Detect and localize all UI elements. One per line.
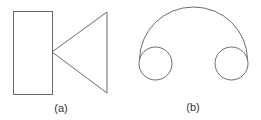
rectangle-shape [14,12,53,95]
figure-a-label: (a) [54,102,67,114]
diagram-canvas: (a) (b) [0,0,261,120]
triangle-shape [52,12,107,93]
right-circle-shape [215,47,248,80]
figure-b-label: (b) [186,101,199,113]
figure-b: (b) [139,7,248,113]
figure-a: (a) [14,12,108,115]
semicircle-arc-shape [140,7,248,60]
left-circle-shape [139,47,172,80]
